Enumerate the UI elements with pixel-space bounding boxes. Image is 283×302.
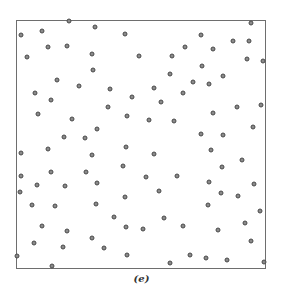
data-point: [90, 153, 95, 158]
data-point: [251, 125, 256, 130]
data-point: [19, 33, 24, 38]
data-point: [188, 253, 193, 258]
data-point: [181, 224, 186, 229]
data-point: [95, 127, 100, 132]
data-point: [144, 175, 149, 180]
data-point: [30, 203, 35, 208]
data-point: [70, 117, 75, 122]
data-point: [231, 39, 236, 44]
data-point: [40, 29, 45, 34]
data-point: [225, 258, 230, 263]
data-point: [181, 91, 186, 96]
data-point: [157, 189, 162, 194]
data-point: [175, 174, 180, 179]
data-point: [125, 114, 130, 119]
data-point: [77, 84, 82, 89]
data-point: [19, 174, 24, 179]
data-point: [216, 228, 221, 233]
data-point: [247, 39, 252, 44]
data-point: [46, 147, 51, 152]
data-point: [50, 264, 55, 269]
data-point: [33, 91, 38, 96]
data-point: [152, 152, 157, 157]
data-point: [220, 165, 225, 170]
data-point: [168, 72, 173, 77]
data-point: [249, 239, 254, 244]
data-point: [152, 86, 157, 91]
data-point: [18, 190, 23, 195]
data-point: [258, 209, 263, 214]
data-point: [221, 74, 226, 79]
data-point: [123, 195, 128, 200]
data-point: [108, 87, 113, 92]
data-point: [67, 19, 72, 24]
data-point: [221, 133, 226, 138]
data-point: [191, 80, 196, 85]
data-point: [55, 78, 60, 83]
data-point: [219, 191, 224, 196]
data-point: [65, 44, 70, 49]
data-point: [40, 224, 45, 229]
data-point: [199, 33, 204, 38]
data-point: [19, 151, 24, 156]
data-point: [25, 55, 30, 60]
data-point: [36, 112, 41, 117]
data-point: [93, 25, 98, 30]
data-point: [112, 215, 117, 220]
data-point: [147, 118, 152, 123]
data-point: [245, 57, 250, 62]
data-point: [170, 54, 175, 59]
data-point: [207, 180, 212, 185]
data-point: [249, 21, 254, 26]
data-point: [236, 194, 241, 199]
data-point: [259, 103, 264, 108]
data-point: [35, 183, 40, 188]
data-point: [130, 95, 135, 100]
data-point: [261, 59, 266, 64]
data-point: [124, 145, 129, 150]
data-point: [125, 253, 130, 258]
data-point: [61, 245, 66, 250]
data-point: [183, 45, 188, 50]
data-point: [15, 254, 20, 259]
data-point: [123, 32, 128, 37]
data-point: [240, 158, 245, 163]
data-point: [49, 170, 54, 175]
data-point: [204, 256, 209, 261]
data-point: [207, 82, 212, 87]
data-point: [252, 182, 257, 187]
data-point: [94, 202, 99, 207]
data-point: [121, 164, 126, 169]
data-point: [63, 184, 68, 189]
data-point: [91, 68, 96, 73]
data-point: [211, 111, 216, 116]
data-point: [200, 64, 205, 69]
figure-caption: (e): [0, 273, 283, 284]
data-point: [209, 148, 214, 153]
data-point: [62, 135, 67, 140]
data-point: [32, 241, 37, 246]
data-point: [141, 227, 146, 232]
data-point: [172, 119, 177, 124]
data-point: [49, 98, 54, 103]
data-point: [159, 100, 164, 105]
data-point: [46, 45, 51, 50]
data-point: [95, 181, 100, 186]
data-point: [137, 54, 142, 59]
data-point: [83, 136, 88, 141]
data-point: [65, 229, 70, 234]
data-point: [84, 170, 89, 175]
data-point: [90, 52, 95, 57]
data-point: [90, 236, 95, 241]
data-point: [199, 132, 204, 137]
data-point: [211, 47, 216, 52]
data-point: [235, 105, 240, 110]
data-point: [262, 260, 267, 265]
data-point: [102, 246, 107, 251]
data-point: [206, 203, 211, 208]
data-point: [162, 216, 167, 221]
data-point: [53, 204, 58, 209]
data-point: [106, 105, 111, 110]
data-point: [124, 225, 129, 230]
data-point: [243, 221, 248, 226]
